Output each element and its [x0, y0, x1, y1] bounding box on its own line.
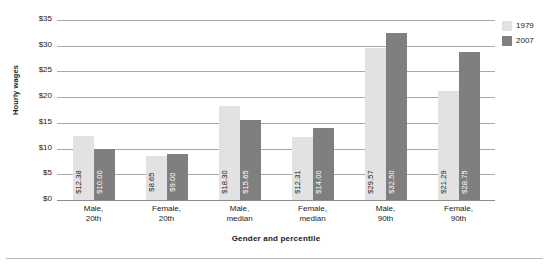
x-axis-label: Female,90th — [422, 204, 495, 224]
x-axis-label: Female,median — [276, 204, 349, 224]
bar[interactable]: $15.65 — [240, 120, 261, 200]
x-axis-label: Male,median — [203, 204, 276, 224]
bar-value-label: $15.65 — [242, 170, 250, 194]
bar[interactable]: $12.38 — [73, 136, 94, 200]
bar-group: $12.31$14.00 — [276, 20, 349, 200]
bar-value-label: $32.50 — [388, 170, 396, 194]
bar-group: $29.57$32.50 — [349, 20, 422, 200]
x-axis-title: Gender and percentile — [57, 234, 495, 243]
bar-value-label: $12.31 — [294, 170, 302, 194]
y-tick-label: $20 — [12, 92, 52, 100]
bar-pair: $21.29$28.75 — [438, 20, 480, 200]
legend-item-2007[interactable]: 2007 — [502, 34, 548, 47]
bar[interactable]: $28.75 — [459, 52, 480, 200]
x-axis-label-line: Male, — [349, 204, 422, 214]
y-tick-label: $10 — [12, 144, 52, 152]
x-axis-label-line: 20th — [57, 214, 130, 224]
bar-group: $21.29$28.75 — [422, 20, 495, 200]
legend-label-2007: 2007 — [516, 36, 534, 46]
x-axis-label-line: Male, — [203, 204, 276, 214]
bar-value-label: $28.75 — [461, 170, 469, 194]
legend-item-1979[interactable]: 1979 — [502, 19, 548, 32]
bar-value-label: $10.00 — [96, 170, 104, 194]
x-axis-label-line: 20th — [130, 214, 203, 224]
bar-group: $18.30$15.65 — [203, 20, 276, 200]
bar-pair: $29.57$32.50 — [365, 20, 407, 200]
bar-group: $8.65$9.00 — [130, 20, 203, 200]
bar-pair: $8.65$9.00 — [146, 20, 188, 200]
bar-chart-figure: Hourly wages $35$30$25$20$15$10$5$0 $12.… — [0, 0, 549, 264]
plot-area: $12.38$10.00$8.65$9.00$18.30$15.65$12.31… — [57, 20, 495, 200]
x-axis-label: Male,20th — [57, 204, 130, 224]
bar-pair: $12.38$10.00 — [73, 20, 115, 200]
bar-value-label: $29.57 — [367, 170, 375, 194]
bar[interactable]: $32.50 — [386, 33, 407, 200]
legend-swatch-1979 — [502, 21, 512, 31]
x-axis-category-labels: Male,20thFemale,20thMale,medianFemale,me… — [57, 204, 495, 224]
bar-value-label: $18.30 — [221, 170, 229, 194]
bar[interactable]: $21.29 — [438, 91, 459, 200]
bar[interactable]: $9.00 — [167, 154, 188, 200]
y-tick-label: $35 — [12, 15, 52, 23]
x-axis-label: Male,90th — [349, 204, 422, 224]
bar[interactable]: $10.00 — [94, 149, 115, 200]
x-axis-label-line: Female, — [276, 204, 349, 214]
bar-groups: $12.38$10.00$8.65$9.00$18.30$15.65$12.31… — [57, 20, 495, 200]
y-tick-label: $0 — [12, 195, 52, 203]
bar-value-label: $8.65 — [148, 172, 156, 191]
bar-pair: $18.30$15.65 — [219, 20, 261, 200]
y-axis-tick-labels: $35$30$25$20$15$10$5$0 — [10, 20, 52, 200]
bar-value-label: $14.00 — [315, 170, 323, 194]
x-axis-label-line: Female, — [130, 204, 203, 214]
x-axis-label-line: 90th — [349, 214, 422, 224]
bar-value-label: $12.38 — [75, 170, 83, 194]
chart-legend: 1979 2007 — [502, 19, 548, 49]
x-axis-label-line: Female, — [422, 204, 495, 214]
x-axis-label-line: Male, — [57, 204, 130, 214]
x-axis-label-line: median — [276, 214, 349, 224]
bar-pair: $12.31$14.00 — [292, 20, 334, 200]
bar[interactable]: $29.57 — [365, 48, 386, 200]
x-axis-label-line: median — [203, 214, 276, 224]
bar-value-label: $21.29 — [440, 170, 448, 194]
figure-bottom-rule — [6, 258, 543, 259]
y-tick-label: $25 — [12, 66, 52, 74]
x-axis-label-line: 90th — [422, 214, 495, 224]
x-axis-label: Female,20th — [130, 204, 203, 224]
bar[interactable]: $8.65 — [146, 156, 167, 200]
gridline-0 — [57, 200, 495, 201]
bar[interactable]: $18.30 — [219, 106, 240, 200]
bar-value-label: $9.00 — [169, 172, 177, 191]
y-tick-label: $5 — [12, 169, 52, 177]
legend-swatch-2007 — [502, 36, 512, 46]
y-tick-label: $30 — [12, 41, 52, 49]
bar[interactable]: $12.31 — [292, 137, 313, 200]
y-tick-label: $15 — [12, 118, 52, 126]
bar-group: $12.38$10.00 — [57, 20, 130, 200]
legend-label-1979: 1979 — [516, 21, 534, 31]
bar[interactable]: $14.00 — [313, 128, 334, 200]
